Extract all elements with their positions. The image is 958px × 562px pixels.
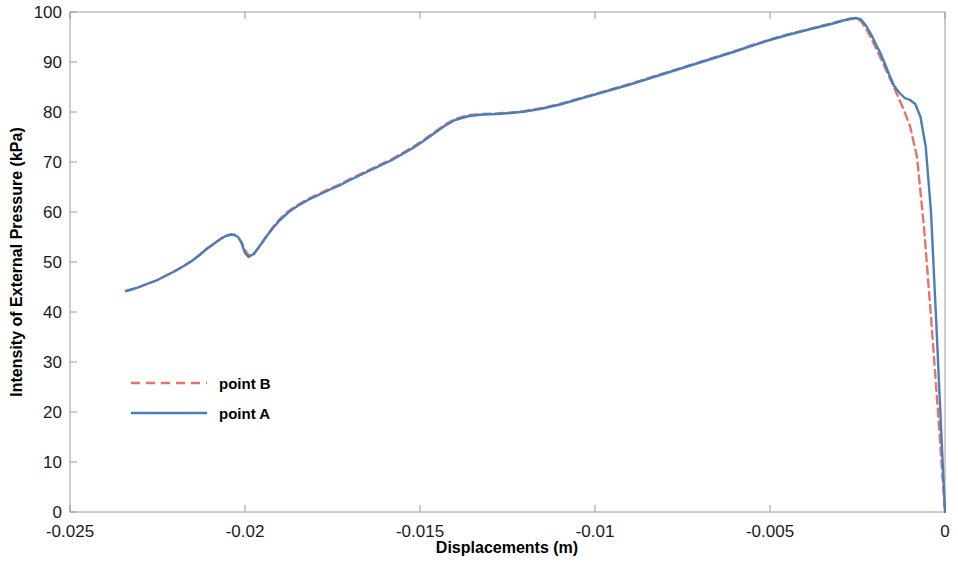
legend-label-point-b: point B bbox=[219, 375, 271, 392]
plot-canvas: 0102030405060708090100 -0.025-0.02-0.015… bbox=[0, 0, 958, 562]
y-tick-label: 50 bbox=[43, 253, 62, 272]
y-tick-label: 20 bbox=[43, 403, 62, 422]
y-tick-label: 30 bbox=[43, 353, 62, 372]
y-tick-label: 10 bbox=[43, 453, 62, 472]
chart-figure: 0102030405060708090100 -0.025-0.02-0.015… bbox=[0, 0, 958, 562]
legend-label-point-a: point A bbox=[219, 405, 270, 422]
y-tick-label: 0 bbox=[53, 503, 62, 522]
x-tick-label: 0 bbox=[940, 522, 949, 541]
x-tick-label: -0.005 bbox=[746, 522, 794, 541]
y-tick-label: 80 bbox=[43, 103, 62, 122]
plot-area-background bbox=[70, 12, 945, 512]
x-axis-title: Displacements (m) bbox=[436, 539, 578, 556]
y-tick-label: 60 bbox=[43, 203, 62, 222]
y-axis-title: Intensity of External Pressure (kPa) bbox=[8, 127, 25, 396]
x-tick-label: -0.025 bbox=[46, 522, 94, 541]
y-tick-label: 100 bbox=[34, 3, 62, 22]
y-tick-label: 40 bbox=[43, 303, 62, 322]
y-tick-label: 70 bbox=[43, 153, 62, 172]
x-tick-label: -0.02 bbox=[226, 522, 265, 541]
y-axis-tick-labels: 0102030405060708090100 bbox=[34, 3, 62, 522]
x-tick-label: -0.01 bbox=[576, 522, 615, 541]
y-tick-label: 90 bbox=[43, 53, 62, 72]
